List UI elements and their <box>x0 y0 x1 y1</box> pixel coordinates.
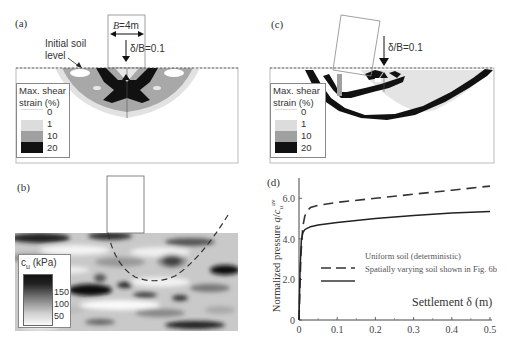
legend-value-1: 1 <box>47 118 52 129</box>
x-tick-label: 0.5 <box>484 324 497 335</box>
footing-width-annotation: BB=4m=4m <box>113 20 139 31</box>
settlement-annotation-c: δ/B=0.1 <box>388 42 423 53</box>
cu-unit: (kPa) <box>30 257 57 268</box>
y-tick-label: 0 <box>290 315 295 326</box>
legend-spatial-soil: Spatially varying soil shown in Fig. 6b <box>365 264 497 274</box>
panel-b-label: (b) <box>17 181 30 193</box>
panel-a-label: (a) <box>15 17 27 29</box>
legend-value-0: 0 <box>47 106 52 117</box>
soil-level-annotation-line2: level <box>45 50 66 61</box>
legend-swatch-1 <box>275 120 297 131</box>
legend-uniform-soil: Uniform soil (deterministic) <box>365 251 461 261</box>
legend-value-3: 20 <box>47 142 58 153</box>
x-tick-label: 0.4 <box>446 324 459 335</box>
shear-strain-legend-a: Max. shear strain (%) 0 1 10 20 <box>16 83 70 158</box>
legend-swatch-2 <box>21 131 43 142</box>
legend-title-line1: Max. shear <box>17 84 69 97</box>
settlement-annotation-a: δ/B=0.1 <box>130 43 165 54</box>
cu-legend: cu (kPa) 150 100 50 <box>18 254 71 328</box>
legend-value-0: 0 <box>301 106 306 117</box>
panel-c-label: (c) <box>271 18 283 30</box>
legend-value-3: 20 <box>301 142 312 153</box>
x-tick-label: 0.1 <box>331 324 344 335</box>
legend-value-1: 1 <box>301 118 306 129</box>
legend-value-2: 10 <box>47 130 58 141</box>
legend-swatch-3 <box>21 142 43 153</box>
legend-title-line2: strain (%) <box>271 96 325 109</box>
legend-swatch-1 <box>21 120 43 131</box>
cu-legend-title: cu (kPa) <box>19 255 70 273</box>
legend-solid-swatch <box>321 269 355 271</box>
x-tick-label: 0 <box>297 324 302 335</box>
cu-tick-150: 150 <box>54 287 69 297</box>
legend-value-2: 10 <box>301 130 312 141</box>
x-axis-label: Settlement δ (m) <box>412 295 492 310</box>
panel-d: 00.10.20.30.40.502.04.06.0 (d) Settlemen… <box>255 170 510 347</box>
legend-dashed-swatch <box>321 256 355 258</box>
panel-c: (c) δ/B=0.1 Max. shear strain (%) 0 1 10… <box>255 0 510 170</box>
soil-level-annotation-line1: Initial soil <box>45 38 86 49</box>
legend-title-line1: Max. shear <box>271 84 325 97</box>
legend-swatch-2 <box>275 131 297 142</box>
cu-tick-100: 100 <box>54 299 69 309</box>
cu-colorbar <box>23 274 53 326</box>
y-axis-label: Normalized pressure q/cuav <box>269 196 285 316</box>
panel-b: (b) cu (kPa) 150 100 50 <box>0 170 255 347</box>
panel-a: (a) BB=4m=4m δ/B=0.1 Initial soil level … <box>0 0 255 170</box>
cu-tick-50: 50 <box>54 311 64 321</box>
x-tick-label: 0.3 <box>407 324 420 335</box>
x-tick-label: 0.2 <box>369 324 382 335</box>
panel-d-label: (d) <box>267 176 280 188</box>
legend-title-line2: strain (%) <box>17 96 69 109</box>
legend-swatch-3 <box>275 142 297 153</box>
shear-strain-legend-c: Max. shear strain (%) 0 1 10 20 <box>270 83 326 158</box>
